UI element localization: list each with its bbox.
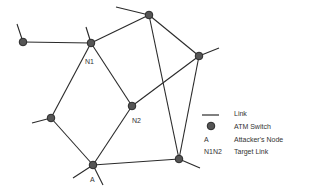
node-bottom-right — [175, 155, 183, 163]
legend: Link ATM Switch A Attacker's Node N1N2 T… — [202, 110, 283, 156]
node-a — [89, 161, 97, 169]
link-far-left-n1 — [23, 42, 91, 43]
legend-link-text: Link — [234, 110, 247, 117]
link-right-bottom-right — [179, 56, 199, 159]
node-top — [145, 11, 153, 19]
network-diagram: N1 N2 A Link ATM Switch A Attacker's Nod… — [0, 0, 311, 194]
node-left-lower — [47, 114, 55, 122]
link-right-n2 — [132, 56, 199, 106]
label-n2: N2 — [132, 117, 141, 124]
label-n1: N1 — [85, 58, 94, 65]
label-a: A — [90, 176, 95, 183]
link-n1-left-lower — [51, 43, 91, 118]
legend-n1n2-symbol: N1N2 — [204, 148, 222, 155]
link-n1-top — [91, 15, 149, 43]
link-a-bottom-right — [93, 159, 179, 165]
legend-attacker-text: Attacker's Node — [234, 136, 283, 143]
link-n1-n2-target — [91, 43, 132, 106]
link-n2-a — [93, 106, 132, 165]
legend-atm-switch-icon — [207, 122, 215, 130]
node-right — [195, 52, 203, 60]
node-far-left — [19, 38, 27, 46]
stub-top — [116, 7, 149, 15]
node-n1 — [87, 39, 95, 47]
atm-switches — [19, 11, 203, 169]
legend-atm-switch-text: ATM Switch — [234, 123, 271, 130]
links — [17, 7, 219, 185]
network-graph: N1 N2 A Link ATM Switch A Attacker's Nod… — [0, 0, 311, 194]
legend-a-symbol: A — [204, 136, 209, 143]
legend-target-link-text: Target Link — [234, 148, 269, 156]
link-left-lower-a — [51, 118, 93, 165]
node-n2 — [128, 102, 136, 110]
